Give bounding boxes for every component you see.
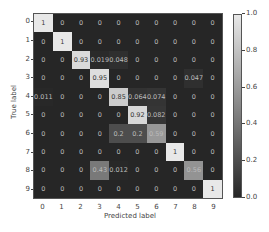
y-tick-label: 9 [18,185,30,193]
matrix-cell: 0 [184,32,203,50]
matrix-cell: 0.2 [128,124,147,142]
matrix-cell: 0 [166,88,185,106]
matrix-cell: 0 [203,32,222,50]
matrix-cell: 0 [90,106,109,124]
matrix-cell: 0 [128,14,147,32]
x-tick-label: 5 [132,203,144,211]
matrix-cell: 0.56 [184,161,203,179]
y-axis-label: True label [10,82,18,122]
confusion-matrix: 10000000000100000000000.930.0190.0480000… [33,13,223,199]
matrix-cell: 0 [203,143,222,161]
matrix-cell: 0 [53,161,72,179]
matrix-cell: 0 [128,51,147,69]
matrix-cell: 0 [90,32,109,50]
matrix-cell: 0 [203,161,222,179]
matrix-cell: 0.048 [109,51,128,69]
matrix-cell: 0 [166,51,185,69]
y-tick-label: 6 [18,129,30,137]
matrix-cell: 0 [184,124,203,142]
matrix-cell: 0 [128,69,147,87]
matrix-cell: 0 [147,69,166,87]
matrix-cell: 0 [34,124,53,142]
matrix-cell: 0 [34,161,53,179]
matrix-cell: 0.43 [90,161,109,179]
matrix-cell: 0 [109,32,128,50]
matrix-cell: 0 [34,143,53,161]
matrix-cell: 0 [128,161,147,179]
x-tick-label: 6 [151,203,163,211]
x-tick-label: 1 [56,203,68,211]
y-tick-label: 2 [18,55,30,63]
matrix-cell: 0 [166,161,185,179]
matrix-cell: 0 [184,14,203,32]
matrix-cell: 0 [53,124,72,142]
y-tick-label: 3 [18,73,30,81]
matrix-cell: 0 [53,51,72,69]
matrix-cell: 0 [53,106,72,124]
matrix-cell: 0 [166,69,185,87]
matrix-cell: 1 [53,32,72,50]
matrix-cell: 0.019 [90,51,109,69]
matrix-cell: 1 [203,180,222,198]
matrix-cell: 0.011 [34,88,53,106]
matrix-cell: 0 [72,161,91,179]
matrix-cell: 0 [166,180,185,198]
y-tick-label: 8 [18,166,30,174]
matrix-cell: 0.012 [109,161,128,179]
x-tick-label: 3 [94,203,106,211]
matrix-cell: 0 [128,32,147,50]
x-tick-label: 9 [208,203,220,211]
matrix-cell: 0 [147,143,166,161]
matrix-cell: 0 [109,69,128,87]
x-tick-label: 4 [113,203,125,211]
x-tick-label: 0 [37,203,49,211]
matrix-cell: 0 [72,143,91,161]
matrix-cell: 0 [203,106,222,124]
matrix-cell: 0 [184,143,203,161]
matrix-cell: 0 [34,106,53,124]
matrix-cell: 0 [203,51,222,69]
matrix-cell: 0 [109,106,128,124]
matrix-cell: 1 [34,14,53,32]
matrix-cell: 0.074 [147,88,166,106]
colorbar-tick-label: 0.2 [246,156,257,164]
matrix-cell: 0 [166,14,185,32]
colorbar-tick-label: 0.0 [246,193,257,201]
matrix-cell: 0 [53,14,72,32]
matrix-cell: 0 [166,106,185,124]
matrix-cell: 0 [72,69,91,87]
colorbar-tick-label: 1.0 [246,9,257,17]
x-axis-label: Predicted label [95,212,165,220]
colorbar [233,14,242,198]
matrix-cell: 0 [90,180,109,198]
matrix-cell: 0.92 [128,106,147,124]
matrix-cell: 0 [34,69,53,87]
colorbar-tick-label: 0.6 [246,83,257,91]
matrix-cell: 0.59 [147,124,166,142]
matrix-cell: 0 [53,143,72,161]
matrix-cell: 0 [184,180,203,198]
matrix-cell: 0 [90,143,109,161]
y-tick-label: 0 [18,17,30,25]
matrix-cell: 0.064 [128,88,147,106]
matrix-cell: 0 [72,106,91,124]
matrix-cell: 0 [90,14,109,32]
matrix-cell: 0 [203,69,222,87]
matrix-cell: 0 [109,14,128,32]
y-tick-label: 4 [18,92,30,100]
matrix-cell: 0 [109,143,128,161]
matrix-cell: 0 [72,14,91,32]
matrix-cell: 0 [128,143,147,161]
matrix-cell: 0 [72,124,91,142]
matrix-cell: 0 [184,88,203,106]
matrix-cell: 0 [184,106,203,124]
matrix-cell: 0 [90,88,109,106]
y-tick-label: 5 [18,110,30,118]
matrix-cell: 0 [72,88,91,106]
matrix-cell: 0 [147,32,166,50]
matrix-cell: 0 [53,69,72,87]
matrix-cell: 0 [72,32,91,50]
matrix-cell: 0 [184,51,203,69]
matrix-cell: 0 [203,124,222,142]
matrix-cell: 0.082 [147,106,166,124]
